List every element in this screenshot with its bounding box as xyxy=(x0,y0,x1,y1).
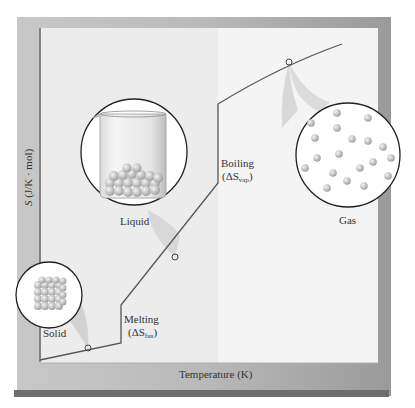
gas-label: Gas xyxy=(339,214,356,227)
bottom-bar xyxy=(14,390,389,397)
gas-inset xyxy=(296,103,400,207)
solid-label: Solid xyxy=(43,327,66,340)
solid-inset xyxy=(16,262,82,328)
boiling-label: Boiling (ΔSvap) xyxy=(221,157,254,187)
liquid-label: Liquid xyxy=(120,215,149,228)
liquid-inset xyxy=(81,99,187,205)
entropy-diagram xyxy=(0,0,415,408)
x-axis-label: Temperature (K) xyxy=(179,368,252,381)
melting-label: Melting (ΔSfus) xyxy=(124,313,159,343)
y-axis-label: S (J/K · mol) xyxy=(22,149,35,206)
